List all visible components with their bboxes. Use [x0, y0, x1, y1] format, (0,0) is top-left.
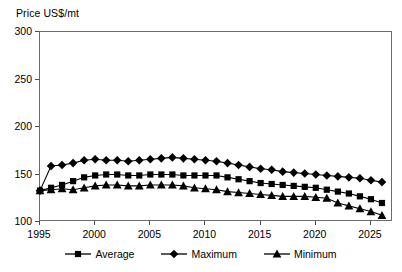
data-point-marker: [356, 174, 365, 183]
data-point-marker: [367, 176, 376, 185]
data-point-marker: [345, 173, 354, 182]
data-point-marker: [103, 171, 109, 177]
data-point-marker: [300, 169, 309, 178]
x-axis-tick-label: 2000: [74, 228, 114, 240]
data-point-marker: [280, 182, 286, 188]
legend-marker-triangle-icon: [264, 248, 290, 260]
data-point-marker: [278, 167, 287, 176]
data-point-marker: [213, 172, 219, 178]
y-axis-tick-label: 250: [2, 73, 32, 85]
x-axis-tick-label: 2005: [129, 228, 169, 240]
series-minimum: [36, 181, 387, 219]
data-point-marker: [169, 171, 175, 177]
data-point-marker: [379, 200, 385, 206]
data-point-marker: [223, 159, 232, 168]
data-point-marker: [91, 155, 100, 164]
data-point-marker: [114, 171, 120, 177]
data-point-marker: [333, 199, 342, 207]
data-point-marker: [302, 184, 308, 190]
data-point-marker: [311, 170, 320, 179]
legend-label: Minimum: [294, 248, 337, 260]
data-point-marker: [125, 172, 131, 178]
data-point-marker: [323, 171, 332, 180]
data-point-marker: [136, 172, 142, 178]
data-point-marker: [147, 171, 153, 177]
legend-item-average[interactable]: Average: [65, 248, 134, 260]
data-point-marker: [235, 176, 241, 182]
chart-legend: AverageMaximumMinimum: [0, 248, 402, 260]
series-line: [40, 157, 382, 190]
data-point-marker: [92, 172, 98, 178]
data-point-marker: [324, 187, 330, 193]
data-point-marker: [135, 156, 144, 165]
data-point-marker: [256, 165, 265, 174]
legend-item-minimum[interactable]: Minimum: [264, 248, 337, 260]
data-point-marker: [334, 172, 343, 181]
x-axis-tick-label: 2015: [240, 228, 280, 240]
data-point-marker: [179, 154, 188, 163]
data-point-marker: [70, 178, 76, 184]
chart-figure: Price US$/mt 100150200250300 19952000200…: [0, 0, 402, 272]
data-point-marker: [378, 178, 387, 187]
data-point-marker: [113, 156, 122, 165]
data-point-marker: [234, 161, 243, 170]
legend-label: Average: [95, 248, 134, 260]
legend-item-maximum[interactable]: Maximum: [161, 248, 237, 260]
data-point-marker: [246, 178, 252, 184]
data-point-marker: [269, 181, 275, 187]
y-axis-tick-label: 200: [2, 120, 32, 132]
data-point-marker: [202, 172, 208, 178]
y-axis-title: Price US$/mt: [16, 7, 79, 19]
data-point-marker: [267, 165, 276, 174]
data-point-marker: [146, 155, 155, 164]
data-point-marker: [158, 171, 164, 177]
y-axis-tick-label: 300: [2, 25, 32, 37]
data-point-marker: [258, 180, 264, 186]
x-axis-tick-label: 2010: [184, 228, 224, 240]
data-point-marker: [346, 190, 352, 196]
data-point-marker: [81, 174, 87, 180]
data-point-marker: [168, 153, 177, 162]
x-axis-tick-label: 2025: [350, 228, 390, 240]
data-point-marker: [80, 156, 89, 165]
data-point-marker: [58, 161, 67, 170]
legend-marker-square-icon: [65, 248, 91, 260]
y-axis-tick-label: 150: [2, 168, 32, 180]
data-point-marker: [289, 168, 298, 177]
series-line: [40, 185, 382, 215]
data-point-marker: [47, 162, 56, 171]
data-point-marker: [378, 211, 387, 219]
data-point-marker: [190, 155, 199, 164]
plot-area: [39, 31, 392, 221]
data-point-marker: [368, 196, 374, 202]
x-axis-tick-label: 1995: [19, 228, 59, 240]
data-point-marker: [313, 185, 319, 191]
data-point-marker: [69, 159, 78, 168]
data-point-marker: [212, 157, 221, 166]
series-maximum: [36, 153, 387, 195]
data-point-marker: [224, 174, 230, 180]
data-point-marker: [245, 163, 254, 172]
x-axis-tick-label: 2020: [295, 228, 335, 240]
data-series-layer: [40, 32, 393, 222]
data-point-marker: [157, 154, 166, 163]
data-point-marker: [291, 183, 297, 189]
data-point-marker: [335, 189, 341, 195]
data-point-marker: [201, 156, 210, 165]
data-point-marker: [124, 157, 133, 166]
data-point-marker: [357, 193, 363, 199]
legend-label: Maximum: [191, 248, 237, 260]
y-axis-tick-label: 100: [2, 215, 32, 227]
data-point-marker: [180, 172, 186, 178]
legend-marker-diamond-icon: [161, 248, 187, 260]
data-point-marker: [102, 156, 111, 165]
data-point-marker: [191, 172, 197, 178]
